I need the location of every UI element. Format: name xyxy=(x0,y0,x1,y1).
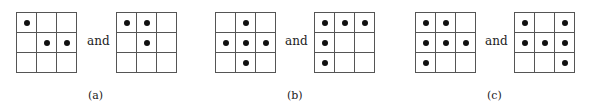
grid-cell xyxy=(416,13,436,33)
grid-cell xyxy=(335,13,355,33)
grid-cell xyxy=(515,13,535,33)
dot-icon xyxy=(562,60,568,66)
grid-cell xyxy=(117,33,137,53)
grid-cell xyxy=(236,33,256,53)
grid-cell xyxy=(456,13,476,33)
grid-cell xyxy=(117,53,137,73)
grid-cell xyxy=(535,53,555,73)
dot-icon xyxy=(562,40,568,46)
grid-cell xyxy=(456,53,476,73)
grid-cell xyxy=(515,33,535,53)
dot-icon xyxy=(24,20,30,26)
dot-icon xyxy=(144,40,150,46)
dot-icon xyxy=(443,20,449,26)
grid-cell xyxy=(555,53,575,73)
dot-icon xyxy=(223,40,229,46)
grid-cell xyxy=(355,13,375,33)
grid-cell xyxy=(137,13,157,33)
grid-cell xyxy=(117,13,137,33)
dot-icon xyxy=(522,40,528,46)
dot-icon xyxy=(362,20,368,26)
grid-cell xyxy=(57,53,77,73)
grid-c-right xyxy=(514,12,575,73)
dot-icon xyxy=(522,20,528,26)
caption-c: (c) xyxy=(487,89,502,102)
grid-cell xyxy=(17,33,37,53)
grid-cell xyxy=(216,13,236,33)
grid-cell xyxy=(57,33,77,53)
grid-cell xyxy=(137,53,157,73)
dot-icon xyxy=(542,40,548,46)
dot-icon xyxy=(342,20,348,26)
dot-icon xyxy=(322,40,328,46)
grid-cell xyxy=(335,53,355,73)
caption-b: (b) xyxy=(287,89,303,102)
grid-cell xyxy=(515,53,535,73)
caption-a: (a) xyxy=(88,89,103,102)
dot-icon xyxy=(243,60,249,66)
dot-icon xyxy=(423,40,429,46)
dot-icon xyxy=(322,60,328,66)
dot-icon xyxy=(144,20,150,26)
dot-icon xyxy=(443,40,449,46)
and-label-b: and xyxy=(285,34,308,48)
grid-cell xyxy=(37,13,57,33)
dot-icon xyxy=(322,20,328,26)
grid-cell xyxy=(256,33,276,53)
grid-cell xyxy=(157,33,177,53)
grid-cell xyxy=(37,33,57,53)
dot-icon xyxy=(44,40,50,46)
grid-cell xyxy=(436,13,456,33)
grid-cell xyxy=(157,13,177,33)
grid-b-left xyxy=(215,12,276,73)
grid-cell xyxy=(416,33,436,53)
grid-cell xyxy=(535,13,555,33)
grid-cell xyxy=(555,13,575,33)
grid-cell xyxy=(535,33,555,53)
grid-a-left xyxy=(16,12,77,73)
grid-cell xyxy=(436,33,456,53)
grid-cell xyxy=(315,13,335,33)
grid-cell xyxy=(236,53,256,73)
grid-cell xyxy=(157,53,177,73)
grid-cell xyxy=(436,53,456,73)
grid-cell xyxy=(17,53,37,73)
grid-cell xyxy=(315,53,335,73)
grid-cell xyxy=(335,33,355,53)
grid-cell xyxy=(57,13,77,33)
grid-c-left xyxy=(415,12,476,73)
grid-cell xyxy=(355,53,375,73)
grid-a-right xyxy=(116,12,177,73)
grid-cell xyxy=(456,33,476,53)
dot-icon xyxy=(263,40,269,46)
grid-cell xyxy=(216,33,236,53)
grid-cell xyxy=(17,13,37,33)
grid-cell xyxy=(555,33,575,53)
dot-icon xyxy=(463,40,469,46)
grid-cell xyxy=(216,53,236,73)
grid-cell xyxy=(416,53,436,73)
grid-cell xyxy=(137,33,157,53)
grid-cell xyxy=(315,33,335,53)
and-label-c: and xyxy=(485,34,508,48)
grid-cell xyxy=(37,53,57,73)
grid-cell xyxy=(256,13,276,33)
grid-cell xyxy=(355,33,375,53)
grid-b-right xyxy=(314,12,375,73)
dot-icon xyxy=(124,20,130,26)
dot-icon xyxy=(562,20,568,26)
and-label-a: and xyxy=(87,34,110,48)
dot-icon xyxy=(423,60,429,66)
dot-icon xyxy=(243,40,249,46)
dot-icon xyxy=(64,40,70,46)
dot-icon xyxy=(243,20,249,26)
dot-icon xyxy=(423,20,429,26)
grid-cell xyxy=(236,13,256,33)
grid-cell xyxy=(256,53,276,73)
